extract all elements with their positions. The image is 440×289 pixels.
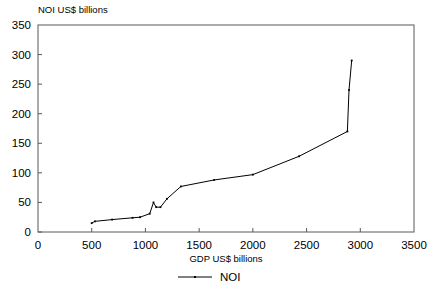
legend-marker-icon <box>194 276 196 278</box>
data-point-marker <box>155 206 157 208</box>
x-tick-label: 2000 <box>240 239 266 251</box>
data-point-marker <box>132 217 134 219</box>
data-point-marker <box>180 186 182 188</box>
data-point-marker <box>153 202 155 204</box>
data-point-marker <box>149 213 151 215</box>
x-tick-label: 3500 <box>401 239 427 251</box>
data-point-marker <box>166 198 168 200</box>
y-tick-label: 200 <box>12 108 31 120</box>
data-point-marker <box>351 60 353 62</box>
line-chart: 050100150200250300350 050010001500200025… <box>0 0 440 289</box>
x-tick-label: 1000 <box>133 239 159 251</box>
chart-legend: NOI <box>178 271 240 283</box>
y-tick-label: 100 <box>12 167 31 179</box>
chart-container: 050100150200250300350 050010001500200025… <box>0 0 440 289</box>
data-point-marker <box>298 155 300 157</box>
y-tick-label: 300 <box>12 49 31 61</box>
y-axis-title: NOI US$ billions <box>38 4 108 15</box>
data-point-marker <box>94 220 96 222</box>
data-point-marker <box>346 131 348 133</box>
y-tick-label: 150 <box>12 137 31 149</box>
x-tick-label: 500 <box>82 239 101 251</box>
data-point-marker <box>139 216 141 218</box>
x-tick-label: 1500 <box>186 239 212 251</box>
y-tick-label: 250 <box>12 78 31 90</box>
data-point-marker <box>213 179 215 181</box>
legend-label-noi: NOI <box>220 271 240 283</box>
y-tick-label: 350 <box>12 19 31 31</box>
y-axis-ticks: 050100150200250300350 <box>12 19 42 238</box>
y-tick-label: 50 <box>18 196 31 208</box>
y-tick-label: 0 <box>25 226 31 238</box>
data-point-marker <box>252 174 254 176</box>
data-point-marker <box>160 206 162 208</box>
x-tick-label: 3000 <box>347 239 373 251</box>
plot-area-frame <box>38 25 414 232</box>
data-point-marker <box>111 219 113 221</box>
data-point-marker <box>348 89 350 91</box>
x-axis-title: GDP US$ billions <box>189 253 262 264</box>
x-tick-label: 2500 <box>294 239 320 251</box>
data-point-marker <box>91 222 93 224</box>
x-tick-label: 0 <box>35 239 41 251</box>
